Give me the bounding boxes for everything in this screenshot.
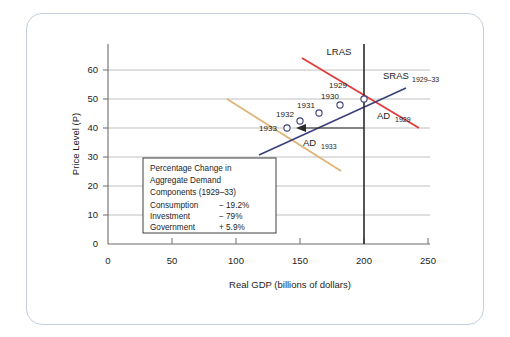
ad-1929-label: AD (377, 110, 390, 121)
ad-1933-label-subscript: 1933 (321, 143, 337, 150)
y-tick-labels: 60 50 40 30 20 10 0 (87, 64, 98, 249)
lras-label: LRAS (327, 46, 352, 57)
shift-arrow (296, 124, 363, 132)
legend-row-consumption-change: − 19.2% (219, 201, 249, 210)
y-tick-label-30: 30 (87, 151, 98, 162)
sras-label-group: SRAS 1929–33 (383, 70, 439, 83)
legend-box: Percentage Change in Aggregate Demand Co… (143, 158, 276, 233)
point-label-1933: 1933 (259, 124, 277, 133)
y-tickmarks (103, 70, 108, 215)
point-label-1932: 1932 (276, 110, 294, 119)
x-tick-label-100: 100 (228, 255, 244, 266)
y-tick-label-10: 10 (87, 209, 98, 220)
legend-row-government-change: + 5.9% (219, 223, 245, 232)
data-point-1930 (337, 102, 343, 108)
ad-1929-label-subscript: 1929 (395, 116, 411, 123)
y-axis-title: Price Level (P) (70, 113, 81, 175)
legend-row-investment-component: Investment (150, 212, 191, 221)
legend-title-line-2: Aggregate Demand (150, 176, 221, 185)
data-point-1932 (297, 118, 303, 124)
legend-title-line-1: Percentage Change in (150, 164, 232, 173)
x-tick-labels: 0 50 100 150 200 250 (105, 255, 436, 266)
x-tick-label-50: 50 (167, 255, 178, 266)
y-tick-label-60: 60 (87, 64, 98, 75)
legend-row-government-component: Government (150, 223, 196, 232)
x-tick-label-200: 200 (356, 255, 372, 266)
y-tick-label-20: 20 (87, 180, 98, 191)
sras-label: SRAS (383, 70, 409, 81)
sras-label-subscript: 1929–33 (412, 76, 439, 83)
legend-title-line-3: Components (1929–33) (150, 188, 236, 197)
data-point-1929 (361, 96, 367, 102)
y-tick-label-0: 0 (93, 238, 98, 249)
legend-row-investment-change: − 79% (219, 212, 242, 221)
ad-1933-label: AD (303, 137, 316, 148)
x-tick-label-0: 0 (105, 255, 110, 266)
point-label-1931: 1931 (297, 101, 315, 110)
legend-row-consumption-component: Consumption (150, 201, 199, 210)
x-tick-label-150: 150 (292, 255, 308, 266)
y-tick-label-40: 40 (87, 122, 98, 133)
point-label-1929: 1929 (329, 81, 347, 90)
x-tick-label-250: 250 (420, 255, 436, 266)
x-tickmarks (172, 238, 428, 244)
ad-1933-label-group: AD 1933 (303, 137, 337, 150)
point-label-1930: 1930 (321, 92, 339, 101)
data-point-1931 (316, 110, 322, 116)
x-axis-title: Real GDP (billions of dollars) (229, 279, 351, 290)
chart-plot-area: 60 50 40 30 20 10 0 0 50 100 150 200 250… (0, 0, 510, 337)
economics-chart-svg: 60 50 40 30 20 10 0 0 50 100 150 200 250… (0, 0, 510, 337)
data-point-1933 (284, 125, 290, 131)
y-tick-label-50: 50 (87, 93, 98, 104)
